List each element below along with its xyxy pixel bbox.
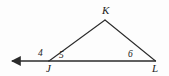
angle-label-5: 5 — [59, 51, 64, 61]
figure-canvas — [0, 0, 169, 76]
segment-jk — [49, 20, 105, 61]
vertex-label-l: L — [152, 63, 158, 74]
angle-label-6: 6 — [128, 50, 133, 60]
geometry-figure: K J L 4 5 6 — [0, 0, 169, 76]
angle-label-4: 4 — [38, 49, 43, 59]
vertex-label-k: K — [102, 5, 109, 16]
vertex-label-j: J — [46, 63, 51, 74]
